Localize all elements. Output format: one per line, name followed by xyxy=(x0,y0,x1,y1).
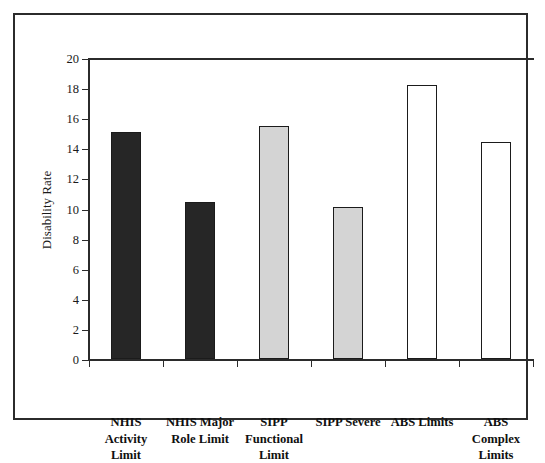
y-tick-label: 6 xyxy=(73,263,79,276)
y-axis-title-text: Disability Rate xyxy=(39,170,55,248)
bar xyxy=(111,132,141,359)
x-tick-mark xyxy=(311,360,312,367)
bar xyxy=(259,126,289,359)
category-label: ABS Limits xyxy=(391,414,454,431)
figure-frame: Disability Rate 02468101214161820 NHIS A… xyxy=(13,13,528,420)
y-tick-label: 0 xyxy=(73,354,79,367)
bar xyxy=(333,207,363,359)
y-tick-label: 8 xyxy=(73,233,79,246)
y-tick-mark xyxy=(82,270,89,271)
y-tick-label: 14 xyxy=(67,143,80,156)
y-tick-label: 10 xyxy=(67,203,80,216)
x-tick-mark xyxy=(533,360,534,367)
y-tick-label: 2 xyxy=(73,324,79,337)
x-tick-mark xyxy=(459,360,460,367)
y-tick-label: 12 xyxy=(67,173,80,186)
category-label: NHIS Activity Limit xyxy=(105,414,148,463)
y-tick-label: 18 xyxy=(67,83,80,96)
bar xyxy=(407,85,437,359)
y-tick-mark xyxy=(82,240,89,241)
category-label: SIPP Severe xyxy=(315,414,380,431)
y-tick-mark xyxy=(82,360,89,361)
y-tick-mark xyxy=(82,330,89,331)
x-tick-mark xyxy=(89,360,90,367)
top-axis-line xyxy=(88,58,534,60)
y-tick-label: 20 xyxy=(67,53,80,66)
y-tick-label: 4 xyxy=(73,294,79,307)
y-tick-mark xyxy=(82,300,89,301)
y-axis-title: Disability Rate xyxy=(37,59,57,360)
category-label: ABS Complex Limits xyxy=(472,414,520,463)
y-tick-mark xyxy=(82,210,89,211)
x-tick-mark xyxy=(385,360,386,367)
x-tick-mark xyxy=(237,360,238,367)
x-tick-mark xyxy=(163,360,164,367)
y-tick-mark xyxy=(82,119,89,120)
y-tick-mark xyxy=(82,179,89,180)
category-label: NHIS Major Role Limit xyxy=(166,414,234,447)
y-tick-mark xyxy=(82,149,89,150)
y-tick-mark xyxy=(82,59,89,60)
plot-area: 02468101214161820 NHIS Activity LimitNHI… xyxy=(89,59,533,360)
category-label: SIPP Functional Limit xyxy=(245,414,303,463)
bar xyxy=(481,142,511,359)
bar xyxy=(185,202,215,359)
y-tick-mark xyxy=(82,89,89,90)
y-tick-label: 16 xyxy=(67,113,80,126)
